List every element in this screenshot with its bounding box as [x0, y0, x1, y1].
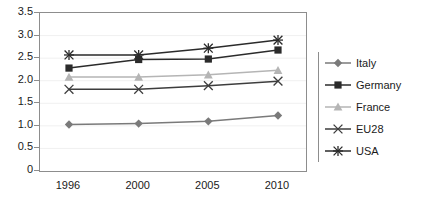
y-tick-label: 2.5 [2, 51, 33, 62]
legend-label: France [356, 101, 390, 113]
legend: ItalyGermanyFranceEU28USA [318, 52, 433, 162]
line-chart: 00.51.01.52.02.53.03.5 1996200020052010 … [0, 0, 435, 214]
x-tick-label: 2000 [113, 180, 163, 191]
x-tick-label: 2010 [252, 180, 302, 191]
legend-marker-triangle-icon [325, 100, 351, 114]
x-tick-label: 2005 [182, 180, 232, 191]
legend-item-germany[interactable]: Germany [319, 74, 433, 96]
legend-marker-x-icon [325, 122, 351, 136]
legend-item-usa[interactable]: USA [319, 140, 433, 162]
legend-item-eu28[interactable]: EU28 [319, 118, 433, 140]
data-point-square [334, 81, 341, 88]
y-tick-mark [34, 80, 39, 81]
legend-label: EU28 [356, 123, 384, 135]
y-tick-mark [34, 170, 39, 171]
y-tick-label: 0.5 [2, 141, 33, 152]
legend-item-italy[interactable]: Italy [319, 52, 433, 74]
y-tick-label: 3.0 [2, 29, 33, 40]
y-tick-label: 0 [2, 164, 33, 175]
y-tick-mark [34, 12, 39, 13]
y-tick-label: 2.0 [2, 74, 33, 85]
y-tick-mark [34, 125, 39, 126]
y-tick-mark [34, 102, 39, 103]
data-point-diamond [334, 59, 342, 67]
x-tick-label: 1996 [43, 180, 93, 191]
y-tick-label: 1.5 [2, 96, 33, 107]
y-tick-label: 3.5 [2, 6, 33, 17]
y-tick-mark [34, 147, 39, 148]
legend-marker-square-icon [325, 78, 351, 92]
y-tick-label: 1.0 [2, 119, 33, 130]
legend-item-france[interactable]: France [319, 96, 433, 118]
legend-marker-asterisk-icon [325, 144, 351, 158]
legend-label: USA [356, 145, 379, 157]
data-point-asterisk [333, 146, 343, 156]
legend-label: Germany [356, 79, 401, 91]
y-tick-mark [34, 35, 39, 36]
legend-marker-diamond-icon [325, 56, 351, 70]
y-tick-mark [34, 57, 39, 58]
legend-label: Italy [356, 57, 376, 69]
